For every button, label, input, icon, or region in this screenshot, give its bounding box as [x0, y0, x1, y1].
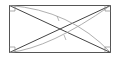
geometry-diagram: [0, 0, 119, 75]
tick-mark-lower: [64, 35, 66, 40]
